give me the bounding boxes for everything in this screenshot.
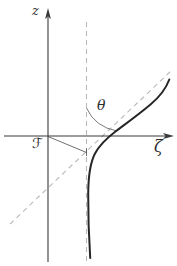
figure-svg: [0, 0, 177, 266]
figure-canvas: z ζ θ ℱ: [0, 0, 177, 266]
focus-connector-line: [48, 137, 87, 153]
angle-label: θ: [97, 98, 105, 112]
focus-point-label: ℱ: [32, 136, 43, 150]
horizontal-axis-label: ζ: [154, 139, 163, 155]
vertical-axis-label: z: [32, 4, 39, 17]
